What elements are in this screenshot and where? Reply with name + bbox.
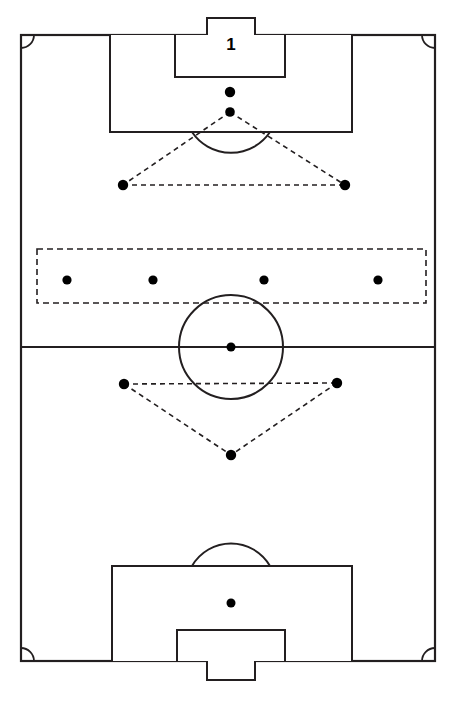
soccer-pitch-svg: 1 xyxy=(0,0,459,702)
bottom-goal-area xyxy=(177,630,285,661)
player-marker-midfield-4[interactable] xyxy=(373,275,382,284)
player-marker-midfield-3[interactable] xyxy=(259,275,268,284)
player-marker-attack-right-wide[interactable] xyxy=(340,180,350,190)
player-marker-attack-left-wide[interactable] xyxy=(118,180,128,190)
goalkeeper-number-label: 1 xyxy=(226,35,235,54)
player-marker-defense-right-wide[interactable] xyxy=(332,378,342,388)
player-marker-defense-apex-low[interactable] xyxy=(226,450,236,460)
player-marker-attack-center-high[interactable] xyxy=(225,87,235,97)
player-marker-midfield-1[interactable] xyxy=(62,275,71,284)
bottom-penalty-spot xyxy=(227,599,236,608)
pitch-markings xyxy=(21,18,435,680)
top-goal xyxy=(207,18,255,35)
player-marker-attack-apex[interactable] xyxy=(225,107,235,117)
player-marker-midfield-2[interactable] xyxy=(148,275,157,284)
center-spot-marker xyxy=(227,343,236,352)
bottom-goal xyxy=(207,661,255,680)
formation-diagram-canvas: 1 xyxy=(0,0,459,702)
player-marker-defense-left-wide[interactable] xyxy=(119,379,129,389)
